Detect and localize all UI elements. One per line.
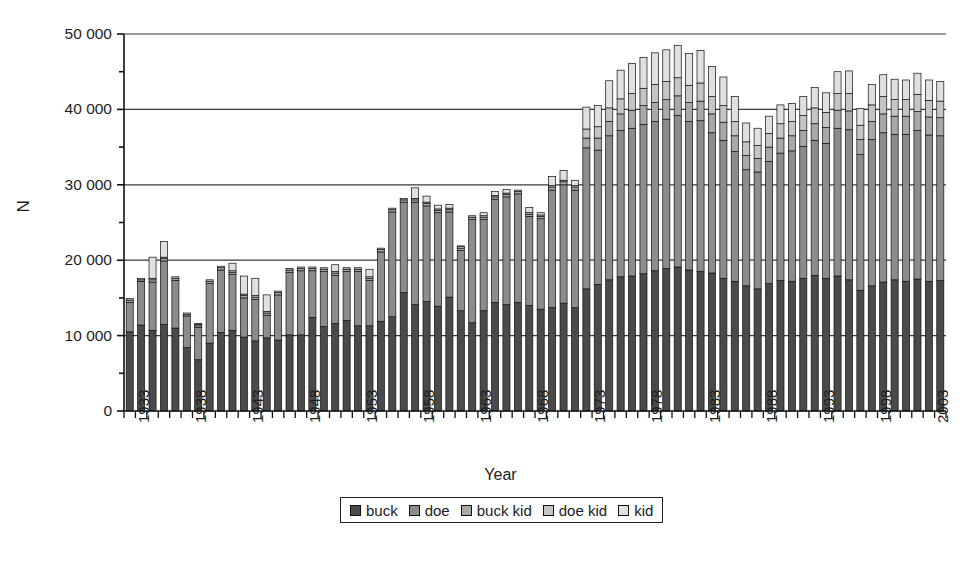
bar-segment — [720, 140, 727, 278]
bar-segment — [160, 324, 167, 411]
bar-segment — [720, 122, 727, 140]
bar-segment — [754, 172, 761, 289]
x-axis-tick-label: 1983 — [707, 390, 722, 423]
bar-segment — [218, 333, 225, 411]
bar-segment — [868, 121, 875, 139]
bar-segment — [526, 305, 533, 411]
bar-segment — [503, 189, 510, 193]
bar-segment — [206, 284, 213, 344]
bar-segment — [629, 276, 636, 411]
legend-item: buck kid — [461, 502, 532, 519]
bar-segment — [297, 267, 304, 269]
bar-segment — [355, 326, 362, 411]
bar-segment — [754, 146, 761, 159]
bar-segment — [925, 117, 932, 135]
bar-segment — [880, 75, 887, 97]
bar-segment — [754, 128, 761, 145]
bar-segment — [743, 142, 750, 156]
bar-segment — [492, 199, 499, 302]
bar-segment — [903, 281, 910, 411]
bar-segment — [343, 272, 350, 321]
x-axis-tick-label: 1963 — [478, 390, 493, 423]
bar-segment — [686, 121, 693, 270]
bar-segment — [686, 54, 693, 86]
bar-segment — [160, 241, 167, 257]
bar-segment — [857, 140, 864, 155]
legend-item: buck — [350, 502, 398, 519]
y-axis-tick-label: 50 000 — [8, 26, 112, 42]
bar-segment — [663, 50, 670, 82]
bar-segment — [320, 268, 327, 270]
legend-item: doe kid — [543, 502, 607, 519]
bar-segment — [412, 305, 419, 411]
bar-segment — [469, 323, 476, 411]
bar-segment — [355, 272, 362, 326]
x-axis-tick-label: 1933 — [136, 390, 151, 423]
bar-segment — [674, 45, 681, 77]
bar-segment — [811, 140, 818, 275]
bar-segment — [183, 313, 190, 315]
bar-segment — [457, 311, 464, 411]
bar-segment — [845, 111, 852, 130]
bar-segment — [925, 135, 932, 281]
bar-segment — [423, 196, 430, 202]
bar-segment — [834, 94, 841, 111]
bar-segment — [434, 213, 441, 307]
bar-segment — [389, 208, 396, 210]
bar-segment — [868, 140, 875, 286]
bar-segment — [674, 96, 681, 116]
bar-segment — [446, 212, 453, 297]
bar-segment — [537, 219, 544, 309]
bars-group — [126, 45, 944, 411]
bar-segment — [412, 188, 419, 199]
bar-segment — [332, 265, 339, 272]
bar-segment — [731, 152, 738, 282]
bar-segment — [811, 88, 818, 108]
y-axis-tick-label: 30 000 — [8, 177, 112, 193]
bar-segment — [549, 187, 556, 190]
bar-segment — [172, 328, 179, 411]
bar-segment — [571, 187, 578, 190]
bar-segment — [366, 281, 373, 326]
bar-segment — [845, 280, 852, 411]
bar-segment — [503, 305, 510, 411]
bar-segment — [651, 121, 658, 270]
bar-segment — [845, 71, 852, 94]
bar-segment — [937, 136, 944, 281]
bar-segment — [263, 295, 270, 312]
bar-segment — [172, 277, 179, 279]
bar-segment — [777, 105, 784, 124]
bar-segment — [640, 124, 647, 273]
bar-segment — [663, 100, 670, 120]
bar-segment — [366, 269, 373, 277]
bar-segment — [800, 115, 807, 130]
bar-segment — [834, 110, 841, 128]
bar-segment — [686, 270, 693, 411]
bar-segment — [629, 63, 636, 93]
bar-segment — [571, 190, 578, 308]
bar-segment — [697, 121, 704, 272]
bar-segment — [925, 281, 932, 411]
bar-segment — [868, 105, 875, 122]
bar-segment — [788, 151, 795, 281]
legend-swatch-icon — [461, 505, 472, 516]
bar-segment — [389, 317, 396, 411]
bar-segment — [731, 97, 738, 122]
bar-segment — [537, 213, 544, 215]
bar-segment — [811, 124, 818, 141]
bar-segment — [263, 315, 270, 338]
bar-segment — [937, 82, 944, 102]
bar-segment — [240, 298, 247, 337]
bar-segment — [218, 270, 225, 333]
bar-segment — [903, 134, 910, 281]
bar-segment — [400, 202, 407, 292]
bar-segment — [160, 261, 167, 324]
bar-segment — [914, 73, 921, 94]
bar-segment — [891, 100, 898, 117]
x-axis-tick-label: 1973 — [592, 390, 607, 423]
bar-segment — [594, 150, 601, 284]
bar-segment — [823, 112, 830, 127]
bar-segment — [857, 155, 864, 291]
bar-segment — [594, 127, 601, 138]
bar-segment — [914, 279, 921, 411]
